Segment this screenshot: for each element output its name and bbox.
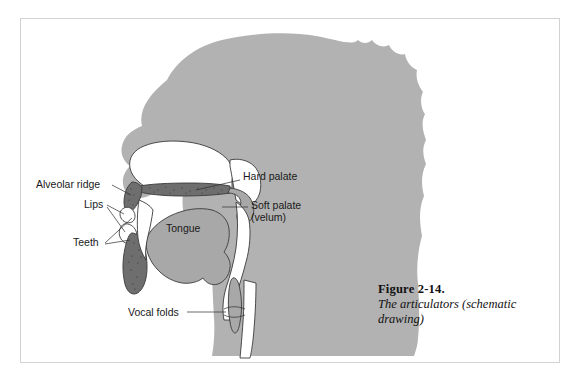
label-soft-palate: Soft palate: [251, 199, 301, 211]
hard-palate: [139, 183, 230, 196]
figure-page: Alveolar ridge Lips Teeth Tongue Hard pa…: [0, 0, 584, 383]
upper-lip: [120, 207, 135, 223]
label-velum: (velum): [251, 211, 286, 223]
epiglottis: [228, 278, 241, 333]
figure-caption: Figure 2-14. The articulators (schematic…: [378, 282, 548, 327]
tongue: [146, 209, 230, 285]
label-alveolar-ridge: Alveolar ridge: [36, 178, 100, 190]
label-tongue: Tongue: [166, 222, 201, 234]
label-teeth: Teeth: [73, 236, 99, 248]
label-lips: Lips: [84, 198, 103, 210]
figure-number: Figure 2-14.: [378, 282, 548, 297]
label-vocal-folds: Vocal folds: [128, 306, 179, 318]
label-hard-palate: Hard palate: [243, 170, 297, 182]
figure-title: The articulators (schematic drawing): [378, 297, 548, 327]
